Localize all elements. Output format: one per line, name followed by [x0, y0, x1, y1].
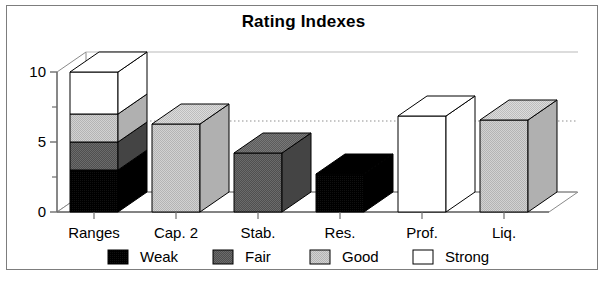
legend-swatch-fair [213, 250, 233, 264]
legend-swatch-good [310, 250, 330, 264]
x-axis-category-labels: Ranges Cap. 2 Stab. Res. Prof. Liq. [68, 224, 516, 241]
bar-stab[interactable] [234, 133, 311, 212]
legend-swatch-weak [108, 250, 128, 264]
bar-cap-2-front[interactable] [152, 124, 200, 212]
bar-segment-weak[interactable] [70, 170, 118, 212]
y-tick-label-5: 5 [38, 133, 46, 150]
bar-segment-fair[interactable] [70, 142, 118, 170]
category-label-res: Res. [325, 224, 356, 241]
bar-res-front[interactable] [316, 174, 364, 212]
bar-prof-front[interactable] [398, 116, 446, 212]
category-label-ranges: Ranges [68, 224, 120, 241]
legend-item-good[interactable]: Good [310, 248, 379, 265]
chart-container: Rating Indexes [0, 0, 607, 282]
bar-stab-front[interactable] [234, 153, 282, 212]
y-tick-label-0: 0 [38, 203, 46, 220]
bar-segment-strong[interactable] [70, 72, 118, 114]
category-label-prof: Prof. [406, 224, 438, 241]
legend-label-strong: Strong [445, 248, 489, 265]
legend-item-weak[interactable]: Weak [108, 248, 179, 265]
category-label-liq: Liq. [492, 224, 516, 241]
y-axis: 0 5 10 [29, 63, 57, 220]
legend-label-good: Good [342, 248, 379, 265]
chart-legend: Weak Fair Good Strong [108, 248, 489, 265]
bar-prof[interactable] [398, 96, 475, 212]
legend-item-strong[interactable]: Strong [413, 248, 489, 265]
x-ticks [94, 212, 504, 219]
legend-label-weak: Weak [140, 248, 179, 265]
category-label-cap-2: Cap. 2 [154, 224, 198, 241]
bar-liq-front[interactable] [480, 120, 528, 212]
legend-label-fair: Fair [245, 248, 271, 265]
category-label-stab: Stab. [240, 224, 275, 241]
bar-segment-good[interactable] [70, 114, 118, 142]
legend-swatch-strong [413, 250, 433, 264]
bar-liq[interactable] [480, 100, 557, 212]
legend-item-fair[interactable]: Fair [213, 248, 271, 265]
bar-ranges[interactable] [70, 52, 147, 212]
y-tick-label-10: 10 [29, 63, 46, 80]
bar-cap-2[interactable] [152, 104, 229, 212]
chart-plot-area: 0 5 10 [0, 0, 607, 282]
